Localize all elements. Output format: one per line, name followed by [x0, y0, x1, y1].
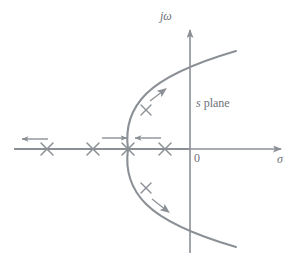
imaginary-axis-label: jω [160, 9, 172, 24]
branch-arrow-lower [152, 199, 166, 210]
branch-point-marker-lower [141, 183, 151, 193]
real-axis-direction-arrows [22, 138, 161, 139]
branch-point-marker-upper [141, 105, 151, 115]
root-locus-figure: jω σ 0 s plane [0, 0, 297, 271]
complex-branch-lower [127, 149, 236, 247]
root-locus-plot [0, 0, 297, 271]
s-plane-label-symbol: s [196, 96, 201, 110]
s-plane-label-word: plane [204, 96, 230, 110]
branch-arrow-upper [150, 91, 163, 101]
origin-label: 0 [194, 151, 200, 166]
real-axis-label: σ [277, 152, 283, 167]
s-plane-label: s plane [196, 96, 230, 111]
